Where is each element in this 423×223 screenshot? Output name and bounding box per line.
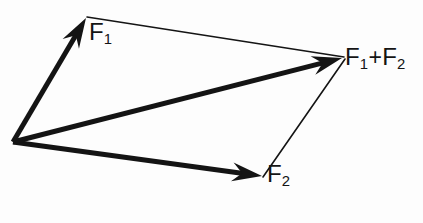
- vector-label-f2-subscript: 2: [282, 173, 290, 189]
- figure-background: [0, 0, 423, 223]
- vector-label-resultant-base2: F: [382, 43, 397, 70]
- vector-diagram-canvas: [0, 0, 423, 223]
- vector-label-f1-base: F: [89, 18, 104, 45]
- vector-label-resultant-subscript2: 2: [397, 56, 405, 72]
- vector-label-resultant-subscript1: 1: [360, 56, 368, 72]
- vector-label-resultant-base1: F: [345, 43, 360, 70]
- vector-label-resultant: F1+F2: [345, 45, 405, 69]
- vector-label-f2-base: F: [267, 160, 282, 187]
- vector-label-f1: F1: [89, 20, 112, 44]
- vector-label-f1-subscript: 1: [104, 31, 112, 47]
- vector-diagram-figure: F1 F2 F1+F2: [0, 0, 423, 223]
- vector-label-f2: F2: [267, 162, 290, 186]
- vector-label-resultant-operator: +: [368, 44, 382, 70]
